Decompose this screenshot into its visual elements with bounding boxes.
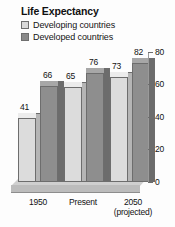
x-label-main: 1950 <box>29 197 47 207</box>
bar-value-2050-developing: 73 <box>112 61 121 71</box>
y-tick <box>148 117 153 118</box>
y-tick-label-80: 80 <box>155 48 164 57</box>
y-tick <box>148 182 153 183</box>
y-tick-label-0: 0 <box>155 178 160 187</box>
bar-value-2050-developed: 82 <box>134 47 143 57</box>
x-label-main: Present <box>69 197 97 207</box>
x-label-main: 2050 <box>124 197 142 207</box>
y-tick <box>148 52 153 53</box>
y-tick <box>148 149 153 150</box>
bar-1950-developed <box>40 81 58 182</box>
bar-value-present-developing: 65 <box>66 71 75 81</box>
chart-figure: Life Expectancy Developing countries Dev… <box>0 0 175 227</box>
bar-2050-developed <box>132 58 149 182</box>
bar-front-face <box>110 77 128 182</box>
bar-value-1950-developing: 41 <box>20 102 29 112</box>
bar-value-1950-developed: 66 <box>43 70 52 80</box>
x-label-2050: 2050 (projected) <box>101 197 165 217</box>
bar-present-developing <box>64 82 82 182</box>
bar-front-face <box>18 118 36 182</box>
bar-2050-developing <box>110 72 128 182</box>
x-label-1950: 1950 <box>13 197 63 207</box>
plot-area: 41 66 65 76 73 <box>0 0 175 227</box>
bar-front-face <box>40 86 58 182</box>
bar-value-present-developed: 76 <box>89 57 98 67</box>
x-label-sub: (projected) <box>101 207 165 217</box>
bar-front-face <box>86 73 104 182</box>
y-tick-label-20: 20 <box>155 145 164 154</box>
bar-1950-developing <box>18 113 36 182</box>
chart-floor-front <box>11 185 140 193</box>
bar-front-face <box>64 87 82 182</box>
y-tick-label-60: 60 <box>155 80 164 89</box>
y-tick <box>148 84 153 85</box>
y-tick-label-40: 40 <box>155 113 164 122</box>
y-axis: 80 60 40 20 0 <box>148 46 175 188</box>
bar-present-developed <box>86 68 104 182</box>
bar-front-face <box>132 63 149 182</box>
